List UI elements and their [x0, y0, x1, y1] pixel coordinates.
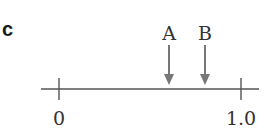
arrow-a-icon [164, 45, 174, 85]
arrow-b-icon [200, 45, 210, 85]
marker-a-label: A [161, 22, 176, 44]
marker-b-label: B [198, 22, 212, 44]
axis-min-label: 0 [53, 107, 65, 129]
axis-max-label: 1.0 [226, 107, 256, 129]
number-line-diagram: A B 0 1.0 [0, 0, 272, 137]
